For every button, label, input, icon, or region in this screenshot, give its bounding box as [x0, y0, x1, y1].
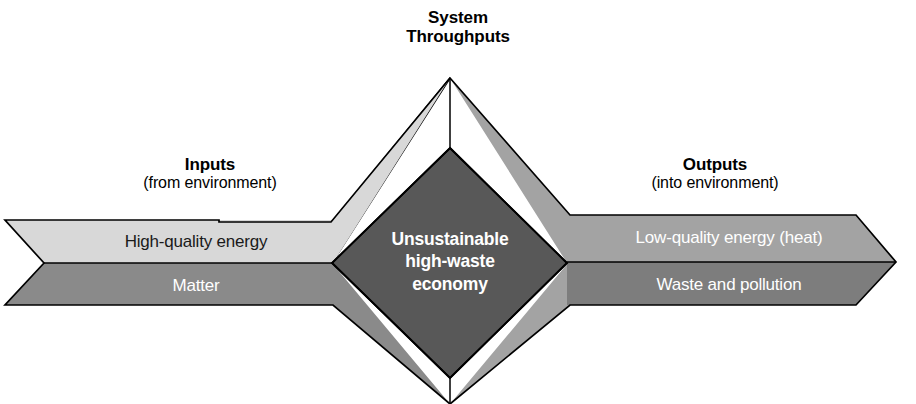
outputs-subheading: (into environment) — [600, 174, 830, 192]
diagram-shapes — [0, 0, 916, 404]
outputs-heading-block: Outputs (into environment) — [600, 155, 830, 193]
inputs-heading-block: Inputs (from environment) — [100, 155, 320, 193]
outputs-heading: Outputs — [600, 155, 830, 174]
input-label-high-quality-energy: High-quality energy — [82, 232, 310, 251]
core-economy-line1: Unsustainable — [360, 228, 540, 250]
figure-title-line1: System — [0, 8, 916, 27]
core-economy-line3: economy — [360, 273, 540, 295]
output-label-low-quality-energy: Low-quality energy (heat) — [600, 228, 858, 247]
figure-title: System Throughputs — [0, 8, 916, 47]
inputs-subheading: (from environment) — [100, 174, 320, 192]
core-economy-label: Unsustainable high-waste economy — [360, 228, 540, 295]
core-economy-line2: high-waste — [360, 250, 540, 272]
figure-title-line2: Throughputs — [0, 27, 916, 46]
system-throughput-diagram: System Throughputs Inputs (from environm… — [0, 0, 916, 404]
output-label-waste-and-pollution: Waste and pollution — [600, 275, 858, 294]
input-label-matter: Matter — [82, 276, 310, 295]
inputs-heading: Inputs — [100, 155, 320, 174]
